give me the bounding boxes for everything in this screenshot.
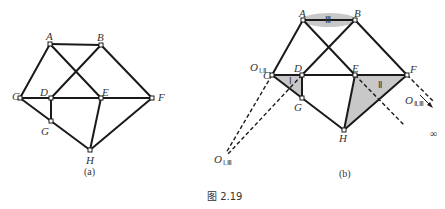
pole-main-O-I-III: O bbox=[214, 153, 222, 165]
label-a-D: D bbox=[39, 86, 48, 98]
edge-a-gh bbox=[51, 121, 90, 150]
pole-sub-O-I-II: Ⅰ,Ⅱ bbox=[259, 67, 266, 74]
caption-a: (a) bbox=[84, 166, 95, 178]
edge-a-ab bbox=[50, 44, 101, 45]
body-label-II: Ⅱ bbox=[378, 80, 382, 90]
body-label-I: Ⅰ bbox=[289, 76, 292, 86]
label-a-G: G bbox=[41, 125, 49, 137]
node-a-G bbox=[49, 119, 53, 123]
pole-main-O-II-III: O bbox=[405, 94, 413, 106]
label-a-C: C bbox=[12, 90, 20, 102]
figure-canvas: A B C D E F G H (a) bbox=[0, 0, 445, 209]
edge-a-cg bbox=[20, 98, 51, 121]
figure-caption: 图 2.19 bbox=[207, 191, 242, 202]
body-label-III: Ⅲ bbox=[325, 15, 331, 25]
diagram-b-dashed-lines bbox=[226, 75, 433, 154]
node-b-C bbox=[270, 73, 274, 77]
diagram-a: A B C D E F G H (a) bbox=[12, 30, 165, 178]
diagram-b: A B C D E F G H Ⅰ Ⅱ Ⅲ O Ⅰ,Ⅱ O Ⅰ,Ⅲ O Ⅱ,Ⅲ … bbox=[214, 7, 437, 180]
label-b-D: D bbox=[293, 62, 302, 74]
label-b-H: H bbox=[338, 132, 348, 144]
node-a-A bbox=[48, 42, 52, 46]
edge-b-gh bbox=[302, 98, 344, 130]
label-a-A: A bbox=[45, 30, 53, 42]
node-a-D bbox=[49, 96, 53, 100]
diagram-b-edges bbox=[272, 20, 407, 130]
label-a-H: H bbox=[85, 154, 95, 166]
node-b-G bbox=[300, 96, 304, 100]
label-b-A: A bbox=[298, 7, 306, 19]
label-b-B: B bbox=[354, 7, 361, 19]
node-a-H bbox=[88, 148, 92, 152]
label-b-G: G bbox=[294, 101, 302, 113]
label-b-F: F bbox=[409, 63, 417, 75]
label-a-E: E bbox=[101, 86, 109, 98]
pole-O-I-III: O Ⅰ,Ⅲ bbox=[214, 153, 232, 166]
label-a-B: B bbox=[97, 31, 104, 43]
label-a-F: F bbox=[157, 91, 165, 103]
node-a-B bbox=[99, 43, 103, 47]
label-b-E: E bbox=[351, 62, 359, 74]
node-b-F bbox=[405, 73, 409, 77]
pole-sub-O-I-III: Ⅰ,Ⅲ bbox=[223, 159, 232, 166]
edge-b-bf bbox=[355, 20, 407, 75]
infinity-symbol: ∞ bbox=[430, 128, 437, 139]
pole-O-I-II: O Ⅰ,Ⅱ bbox=[250, 61, 266, 74]
pole-sub-O-II-III: Ⅱ,Ⅲ bbox=[414, 100, 424, 107]
node-a-F bbox=[150, 96, 154, 100]
pole-main-O-I-II: O bbox=[250, 61, 258, 73]
caption-b: (b) bbox=[339, 168, 351, 180]
